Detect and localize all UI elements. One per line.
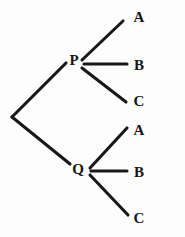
- leaf-node-label-p-c: C: [134, 94, 145, 109]
- tree-edge-p-a-edge: [82, 21, 123, 60]
- tree-edge-p-c-edge: [82, 68, 126, 102]
- tree-edges-layer: [0, 0, 185, 237]
- leaf-node-label-p-a: A: [134, 10, 145, 25]
- leaf-node-label-p-b: B: [134, 58, 144, 73]
- tree-diagram-canvas: PQABCABC: [0, 0, 185, 237]
- tree-edge-root-p: [12, 63, 66, 117]
- branch-node-label-q: Q: [72, 162, 84, 177]
- tree-edge-q-c-edge: [90, 175, 128, 215]
- leaf-node-label-q-b: B: [134, 165, 144, 180]
- tree-edge-q-a-edge: [90, 128, 127, 168]
- branch-node-label-p: P: [69, 53, 78, 68]
- leaf-node-label-q-a: A: [134, 123, 145, 138]
- leaf-node-label-q-c: C: [134, 211, 145, 226]
- tree-edge-root-q: [12, 117, 70, 164]
